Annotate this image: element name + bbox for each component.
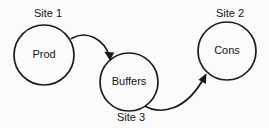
node-buffers[interactable]: Buffers Site 3 [100,53,158,123]
node-cons-label: Cons [214,44,240,56]
diagram-canvas-container: Prod Site 1 Buffers Site 3 Cons Site 2 [0,0,269,128]
node-prod-label: Prod [32,48,55,60]
node-cons[interactable]: Cons Site 2 [198,7,256,80]
arrowhead-icon-buffers-to-cons [199,73,207,84]
node-prod-site-label: Site 1 [34,7,62,19]
node-prod[interactable]: Prod Site 1 [14,7,74,85]
node-cons-site-label: Site 2 [216,7,244,19]
process-flow-diagram: Prod Site 1 Buffers Site 3 Cons Site 2 [0,0,269,128]
edge-prod-to-buffers [72,35,115,60]
node-buffers-label: Buffers [112,75,147,87]
edge-prod-to-buffers-path [72,35,111,57]
node-buffers-site-label: Site 3 [117,111,145,123]
